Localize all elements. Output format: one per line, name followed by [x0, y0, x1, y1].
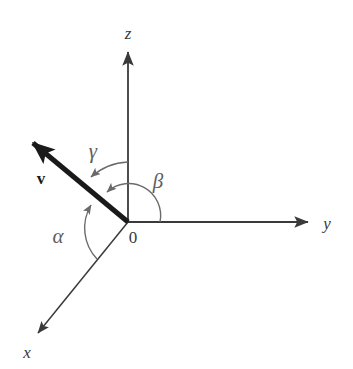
- gamma-label: γ: [89, 139, 98, 163]
- origin-label: 0: [129, 228, 138, 247]
- angle-arcs-group: [85, 162, 161, 259]
- vector-label: v: [37, 169, 46, 188]
- gamma-arc: [91, 162, 128, 177]
- labels-group: z y x 0 v α β γ: [22, 24, 331, 362]
- x-axis-label: x: [22, 343, 31, 362]
- axes-group: [38, 52, 308, 333]
- alpha-arc: [85, 205, 97, 259]
- vector-v-line: [33, 143, 128, 222]
- alpha-label: α: [52, 224, 64, 248]
- diagram-canvas: z y x 0 v α β γ: [0, 0, 353, 369]
- z-axis-label: z: [124, 24, 132, 43]
- vector-group: [33, 143, 128, 222]
- vector-direction-angles-diagram: z y x 0 v α β γ: [0, 0, 353, 369]
- beta-label: β: [152, 169, 164, 193]
- y-axis-label: y: [321, 214, 331, 233]
